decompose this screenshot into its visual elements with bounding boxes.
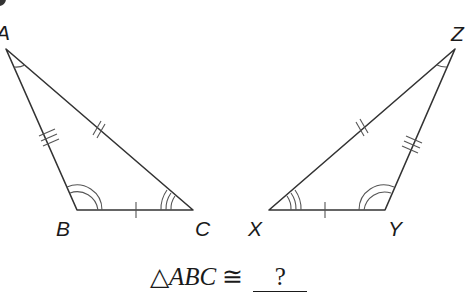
answer-blank[interactable]: ?	[253, 263, 307, 292]
triangle-symbol: △	[150, 263, 169, 290]
side-yz-triple-tick	[402, 136, 422, 153]
vertex-label-y: Y	[388, 218, 402, 239]
vertex-label-x: X	[248, 218, 262, 239]
angle-y-double-arc	[359, 185, 394, 210]
triangle-name: ABC	[169, 263, 216, 290]
congruence-statement: △ABC≅?	[150, 262, 307, 292]
vertex-label-a: A	[0, 22, 10, 43]
vertex-label-b: B	[56, 218, 70, 239]
vertex-label-c: C	[195, 218, 210, 239]
triangle-xyz	[269, 49, 455, 210]
congruent-symbol: ≅	[222, 263, 243, 290]
angle-a-arc	[14, 65, 25, 67]
angle-z-arc	[437, 65, 447, 67]
vertex-label-z: Z	[451, 23, 464, 44]
congruent-triangles-diagram	[0, 0, 466, 297]
triangle-abc	[6, 49, 193, 210]
